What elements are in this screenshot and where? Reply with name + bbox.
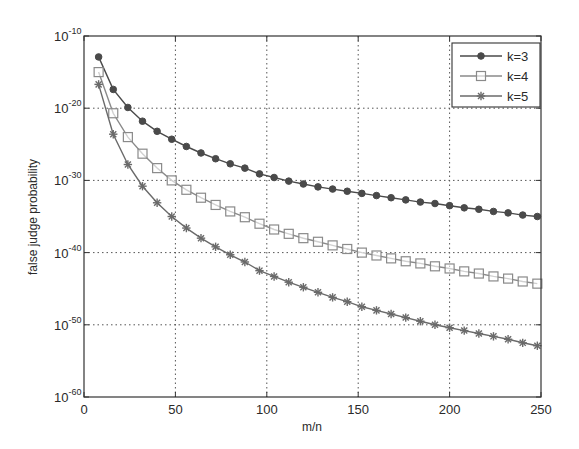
circle-marker (242, 165, 249, 172)
circle-marker (505, 210, 512, 217)
square-marker (255, 219, 264, 228)
circle-marker (125, 104, 132, 111)
x-tick-labels: 050100150200250 (80, 402, 551, 417)
asterisk-marker (197, 234, 205, 242)
series-k5 (94, 80, 541, 350)
square-marker (153, 164, 162, 173)
square-marker (299, 234, 308, 243)
circle-marker (285, 178, 292, 185)
circle-marker (139, 118, 146, 125)
series-line (99, 84, 538, 345)
asterisk-marker (489, 332, 497, 340)
y-tick-label: 10-20 (54, 98, 81, 116)
asterisk-marker (138, 182, 146, 190)
legend-label: k=4 (507, 69, 528, 84)
square-marker (211, 200, 220, 209)
asterisk-marker (387, 310, 395, 318)
square-marker (284, 229, 293, 238)
circle-marker (329, 186, 336, 193)
x-tick-label: 100 (256, 402, 278, 417)
y-tick-label: 10-40 (54, 243, 81, 261)
square-marker (270, 225, 279, 234)
circle-marker (168, 136, 175, 143)
circle-marker (432, 200, 439, 207)
y-axis-label: false judge probability (26, 159, 40, 275)
asterisk-marker (328, 293, 336, 301)
asterisk-marker (343, 297, 351, 305)
circle-marker (373, 192, 380, 199)
circle-marker (359, 190, 366, 197)
circle-marker (534, 213, 541, 220)
square-marker (313, 237, 322, 246)
asterisk-marker (299, 283, 307, 291)
square-marker (504, 274, 513, 283)
legend-label: k=5 (507, 89, 528, 104)
y-tick-labels: 10-1010-2010-3010-4010-5010-60 (54, 26, 81, 405)
asterisk-marker (402, 313, 410, 321)
asterisk-marker (94, 80, 102, 88)
circle-marker (388, 194, 395, 201)
square-marker (416, 259, 425, 268)
square-marker (460, 267, 469, 276)
square-marker (167, 176, 176, 185)
y-tick-label: 10-60 (54, 387, 81, 405)
circle-marker (256, 171, 263, 178)
asterisk-marker (519, 339, 527, 347)
circle-marker (478, 53, 485, 60)
circle-marker (300, 181, 307, 188)
asterisk-marker (314, 288, 322, 296)
x-tick-label: 200 (439, 402, 461, 417)
asterisk-marker (475, 329, 483, 337)
square-marker (328, 241, 337, 250)
asterisk-marker (358, 303, 366, 311)
asterisk-marker (416, 317, 424, 325)
circle-marker (183, 143, 190, 150)
asterisk-marker (270, 272, 278, 280)
circle-marker (198, 150, 205, 157)
square-marker (343, 244, 352, 253)
asterisk-marker (431, 321, 439, 329)
asterisk-marker (372, 306, 380, 314)
circle-marker (490, 208, 497, 215)
asterisk-marker (533, 342, 541, 350)
circle-marker (154, 128, 161, 135)
square-marker (430, 262, 439, 271)
circle-marker (212, 155, 219, 162)
asterisk-marker (285, 278, 293, 286)
circle-marker (446, 202, 453, 209)
x-tick-label: 0 (80, 402, 87, 417)
circle-marker (402, 197, 409, 204)
square-marker (123, 133, 132, 142)
circle-marker (476, 206, 483, 213)
square-marker (196, 193, 205, 202)
square-marker (518, 277, 527, 286)
square-marker (226, 207, 235, 216)
asterisk-marker (255, 266, 263, 274)
square-marker (489, 272, 498, 281)
x-tick-label: 150 (347, 402, 369, 417)
square-marker (109, 109, 118, 118)
asterisk-marker (445, 323, 453, 331)
circle-marker (271, 174, 278, 181)
square-marker (372, 251, 381, 260)
x-axis-label: m/n (302, 420, 322, 434)
square-marker (401, 257, 410, 266)
circle-marker (344, 188, 351, 195)
square-marker (138, 149, 147, 158)
circle-marker (110, 86, 117, 93)
square-marker (357, 248, 366, 257)
asterisk-marker (124, 160, 132, 168)
square-marker (477, 72, 486, 81)
asterisk-marker (109, 130, 117, 138)
asterisk-marker (504, 335, 512, 343)
legend-label: k=3 (507, 49, 528, 64)
asterisk-marker (460, 326, 468, 334)
asterisk-marker (168, 212, 176, 220)
asterisk-marker (226, 251, 234, 259)
y-tick-label: 10-50 (54, 315, 81, 333)
square-marker (474, 269, 483, 278)
x-tick-label: 250 (530, 402, 552, 417)
square-marker (94, 68, 103, 77)
square-marker (240, 213, 249, 222)
y-tick-label: 10-10 (54, 26, 81, 44)
